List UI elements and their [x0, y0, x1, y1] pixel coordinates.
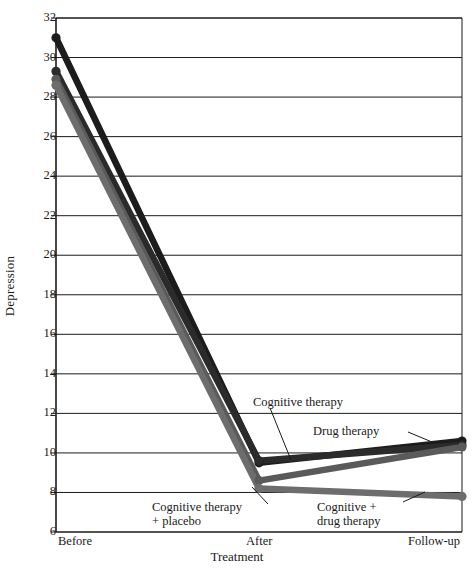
x-axis-title: Treatment	[0, 549, 474, 565]
x-tick-label: Follow-up	[408, 534, 460, 549]
annotation-text: drug therapy	[317, 514, 381, 528]
annotation-drug-therapy: Drug therapy	[313, 424, 379, 438]
annotation-text: Drug therapy	[313, 424, 379, 438]
annotation-text: Cognitive therapy	[253, 395, 343, 409]
leader-line	[270, 408, 291, 460]
x-tick-label: Before	[58, 534, 92, 549]
series-line	[56, 79, 462, 480]
data-point-marker	[51, 81, 60, 90]
plot-area	[0, 0, 474, 572]
series-markers	[51, 33, 466, 501]
annotation-cognitive-therapy-placebo: Cognitive therapy+ placebo	[152, 500, 242, 528]
annotation-cognitive-drug-therapy: Cognitive +drug therapy	[317, 500, 381, 528]
data-point-marker	[51, 67, 60, 76]
x-axis-title-text: Treatment	[211, 549, 264, 564]
annotation-text: Cognitive +	[317, 500, 381, 514]
x-tick-label: After	[246, 534, 272, 549]
series-lines	[56, 38, 462, 497]
series-line	[56, 85, 462, 496]
chart-figure: Depression 68101214161820222426283032 Be…	[0, 0, 474, 572]
annotation-cognitive-therapy: Cognitive therapy	[253, 395, 343, 409]
data-point-marker	[457, 492, 466, 501]
annotation-text: Cognitive therapy	[152, 500, 242, 514]
data-point-marker	[457, 442, 466, 451]
data-point-marker	[254, 476, 263, 485]
leader-line	[408, 432, 432, 442]
data-point-marker	[51, 33, 60, 42]
data-point-marker	[254, 456, 263, 465]
annotation-text: + placebo	[152, 514, 242, 528]
